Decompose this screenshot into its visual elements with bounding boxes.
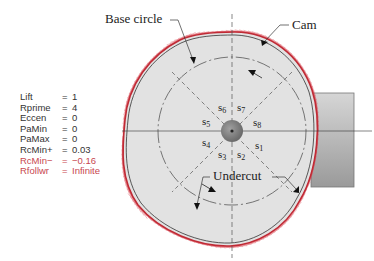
- parameter-row: RcMin+=0.03: [20, 145, 91, 156]
- parameter-value: 4: [72, 102, 77, 113]
- parameter-value: 0.03: [72, 144, 91, 155]
- parameter-name: Rfollwr: [20, 166, 62, 177]
- parameter-value: 0: [72, 133, 77, 144]
- parameter-name: Lift: [20, 92, 62, 103]
- parameter-equals: =: [62, 92, 72, 103]
- parameter-value: 1: [72, 91, 77, 102]
- parameter-name: RcMin+: [20, 145, 62, 156]
- parameter-value: Infinite: [72, 165, 100, 176]
- cam-center: [230, 129, 233, 132]
- parameter-equals: =: [62, 145, 72, 156]
- undercut-label: Undercut: [213, 168, 261, 184]
- parameter-value: 0: [72, 123, 77, 134]
- parameter-row: Rfollwr=Infinite: [20, 166, 100, 177]
- parameter-row: Lift=1: [20, 92, 77, 103]
- cam-diagram: s1 s2 s3 s4 s5 s6 s7 s8 Base circle Cam …: [0, 0, 374, 261]
- parameter-value: −0.16: [72, 155, 96, 166]
- parameter-equals: =: [62, 166, 72, 177]
- base-circle-label: Base circle: [105, 11, 162, 27]
- parameter-value: 0: [72, 112, 77, 123]
- cam-label: Cam: [292, 17, 317, 33]
